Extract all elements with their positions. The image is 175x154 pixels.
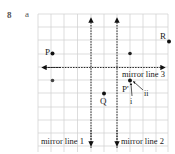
label-mirror-line-1: mirror line 1 bbox=[41, 136, 84, 146]
point-p-reflection-mirror2 bbox=[128, 52, 132, 56]
label-arrow-ii: ii bbox=[144, 89, 149, 98]
label-mirror-line-2: mirror line 2 bbox=[121, 136, 164, 146]
arrow-ii bbox=[134, 82, 143, 90]
label-r: R bbox=[160, 31, 166, 41]
label-p-prime: P' bbox=[122, 84, 129, 94]
point-p-prime bbox=[128, 79, 132, 83]
grid bbox=[38, 14, 168, 152]
mirror-diagram: P R Q P' i ii mirror line 3 mirror line … bbox=[0, 0, 175, 154]
label-q: Q bbox=[100, 96, 107, 106]
point-p-reflection-mirror3 bbox=[51, 79, 55, 83]
label-mirror-line-3: mirror line 3 bbox=[122, 69, 165, 79]
point-q bbox=[102, 92, 106, 96]
arrow-i bbox=[131, 84, 132, 96]
point-p bbox=[51, 52, 55, 56]
point-r bbox=[167, 40, 171, 44]
label-arrow-i: i bbox=[130, 97, 133, 106]
label-p: P bbox=[45, 47, 50, 57]
